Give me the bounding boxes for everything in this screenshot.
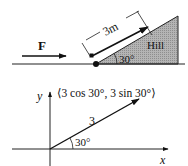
force-label: F: [38, 38, 46, 53]
vector-angle-label: 30°: [75, 136, 90, 148]
vector-diagram: F 3m 30° Hill y x ⟨3 cos 30°, 3 sin 30°⟩…: [0, 0, 188, 166]
distance-label: 3m: [100, 19, 121, 39]
magnitude-label: 3: [89, 114, 95, 128]
y-axis-label: y: [36, 89, 43, 103]
x-axis-label: x: [159, 153, 166, 166]
coordinate-diagram: y x ⟨3 cos 30°, 3 sin 30°⟩ 3 30°: [12, 87, 168, 166]
object-dot: [93, 61, 99, 67]
vector-components-label: ⟨3 cos 30°, 3 sin 30°⟩: [57, 87, 156, 100]
vector-angle-arc: [70, 138, 73, 149]
hill-diagram: F 3m 30° Hill: [12, 11, 185, 67]
hill-angle-label: 30°: [119, 53, 134, 65]
hill-label: Hill: [147, 39, 164, 51]
